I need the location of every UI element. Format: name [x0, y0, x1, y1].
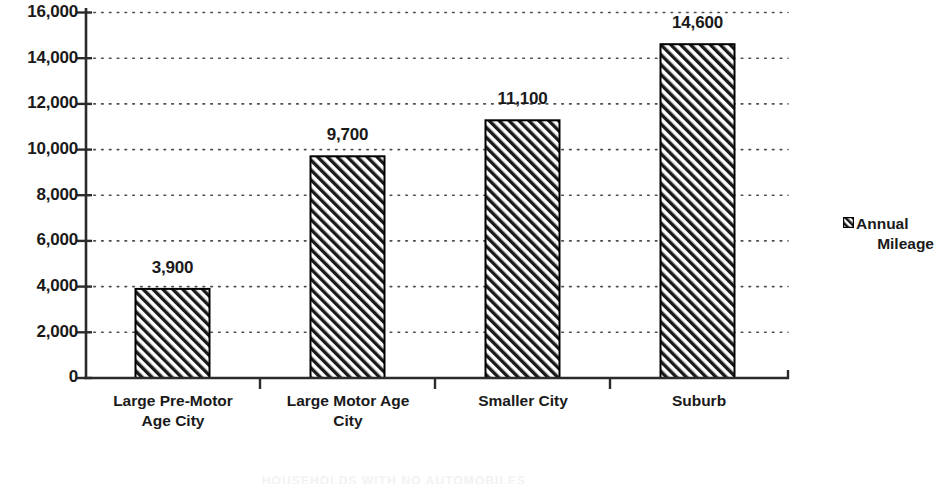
- y-tick-label: 2,000: [4, 322, 78, 342]
- legend: Annual Mileage: [843, 214, 935, 254]
- bar-value-label: 9,700: [298, 125, 398, 145]
- x-category-label-smaller-city: Smaller City: [438, 391, 608, 411]
- y-axis-labels: 16,000 14,000 12,000 10,000 8,000 6,000 …: [0, 0, 78, 484]
- bar-chart: 16,000 14,000 12,000 10,000 8,000 6,000 …: [0, 0, 935, 484]
- x-category-label-large-pre-motor-age-city: Large Pre-Motor Age City: [88, 391, 258, 431]
- y-tick-label: 4,000: [4, 276, 78, 296]
- y-tick-label: 10,000: [4, 139, 78, 159]
- category-label-line: Large Pre-Motor: [88, 391, 258, 411]
- bar-large-motor-age-city: [311, 156, 385, 378]
- category-label-line: Age City: [88, 411, 258, 431]
- bar-large-pre-motor-age-city: [136, 289, 210, 378]
- y-axis-ticks: [77, 13, 92, 379]
- x-category-label-large-motor-age-city: Large Motor Age City: [262, 391, 434, 431]
- category-label-line: Large Motor Age: [262, 391, 434, 411]
- bar-value-label: 3,900: [123, 258, 223, 278]
- category-label-line: City: [262, 411, 434, 431]
- legend-label-line: Annual: [856, 214, 934, 234]
- y-tick-label: 0: [4, 367, 78, 387]
- category-label-line: Smaller City: [438, 391, 608, 411]
- legend-item-annual-mileage: Annual Mileage: [843, 214, 935, 254]
- y-tick-label: 6,000: [4, 230, 78, 250]
- y-tick-label: 8,000: [4, 185, 78, 205]
- category-label-line: Suburb: [612, 391, 786, 411]
- figure-caption: HOUSEHOLDS WITH NO AUTOMOBILES: [0, 474, 788, 484]
- bar-smaller-city: [486, 120, 560, 378]
- bar-value-label: 11,100: [473, 89, 573, 109]
- bar-suburb: [661, 44, 735, 378]
- x-category-label-suburb: Suburb: [612, 391, 786, 411]
- bar-value-label: 14,600: [648, 13, 748, 33]
- y-tick-label: 16,000: [4, 2, 78, 22]
- y-tick-label: 14,000: [4, 48, 78, 68]
- bar-series-annual-mileage: [136, 44, 735, 378]
- legend-label-line: Mileage: [856, 234, 934, 254]
- y-tick-label: 12,000: [4, 93, 78, 113]
- legend-hatch-swatch-icon: [843, 217, 854, 228]
